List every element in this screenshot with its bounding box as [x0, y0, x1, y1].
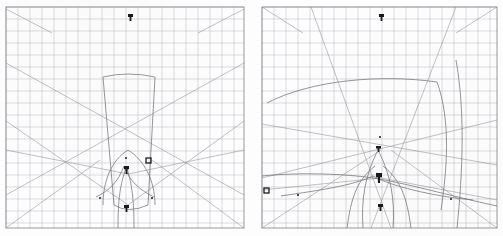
ray-1: [456, 7, 497, 33]
marker-dot-right: [151, 197, 153, 199]
caustic-0: [267, 79, 447, 210]
caustic-7: [456, 60, 462, 228]
ray-6: [262, 150, 381, 228]
marker-left-square: [264, 188, 269, 193]
ray-5: [381, 178, 497, 200]
right-ray-diagram: [251, 0, 503, 236]
marker-dot-top: [379, 136, 381, 138]
marker-dot-left-mid: [297, 194, 299, 196]
grid: [6, 7, 244, 228]
ray-6: [6, 9, 52, 33]
ray-8: [6, 160, 100, 228]
figure-page: [0, 0, 503, 236]
panel-left: [0, 0, 251, 236]
marker-dot-upper-center: [125, 157, 127, 159]
marker-upper-blob: [379, 14, 384, 21]
marker-dot-right-mid: [450, 198, 452, 200]
panel-right: [251, 0, 503, 236]
caustic-4: [127, 168, 134, 228]
left-ray-diagram: [0, 0, 251, 236]
caustic-0: [103, 74, 155, 210]
marker-upper-blob: [128, 14, 133, 21]
ray-8: [311, 7, 391, 228]
caustic-4: [379, 152, 393, 228]
marker-dot-left: [99, 197, 101, 199]
caustic-curves: [262, 60, 497, 228]
ray-0: [262, 7, 303, 33]
ray-7: [198, 9, 244, 33]
